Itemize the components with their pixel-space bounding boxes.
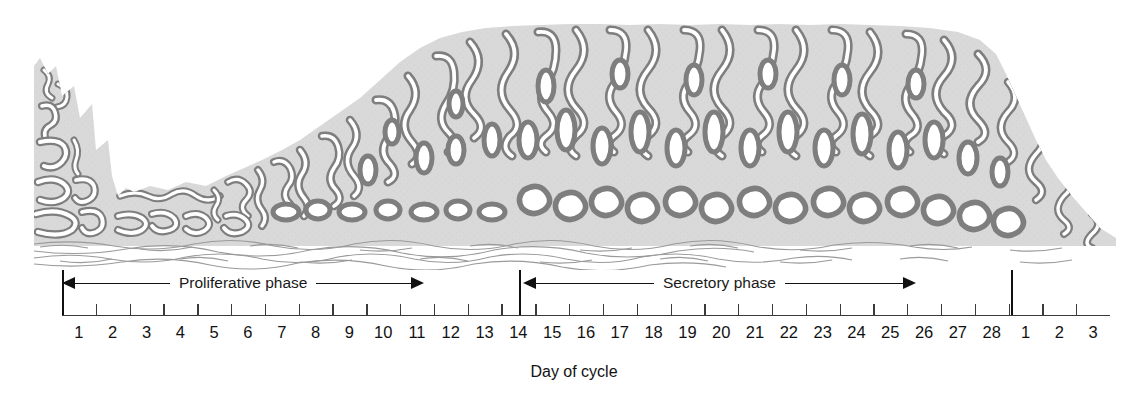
axis-tick [535,304,536,315]
day-label: 11 [408,324,425,341]
axis-tick [738,304,739,315]
axis-tick-group: 1234567891011121314151617181920212223242… [0,262,1148,413]
day-label: 1 [1021,324,1030,341]
axis-tick [671,304,672,315]
day-label: 18 [644,324,662,341]
axis-tick [163,304,164,315]
day-label: 12 [442,324,460,341]
day-label: 20 [712,324,730,341]
axis-tick [1009,304,1010,315]
endometrium-illustration [0,0,1148,270]
axis-tick [197,304,198,315]
axis-tick [1042,304,1043,315]
day-label: 23 [813,324,831,341]
axis-tick [806,304,807,315]
axis-tick [941,304,942,315]
axis-tick [130,304,131,315]
day-label: 17 [611,324,629,341]
day-label: 6 [243,324,252,341]
axis-tick [840,304,841,315]
axis-tick [873,304,874,315]
day-label: 22 [780,324,798,341]
axis-tick [569,304,570,315]
axis-tick [1076,304,1077,315]
axis-tick [603,304,604,315]
axis-tick [332,304,333,315]
day-label: 8 [311,324,320,341]
day-label: 16 [577,324,595,341]
axis-tick [231,304,232,315]
day-label: 15 [543,324,561,341]
day-label: 1 [74,324,83,341]
day-label: 2 [108,324,117,341]
day-label: 21 [746,324,764,341]
day-label: 2 [1055,324,1064,341]
axis-caption: Day of cycle [0,363,1148,381]
axis-tick [96,304,97,315]
day-label: 19 [678,324,696,341]
axis-tick [907,304,908,315]
day-label: 9 [345,324,354,341]
axis-tick [434,304,435,315]
day-label: 13 [475,324,493,341]
day-label: 10 [374,324,392,341]
cycle-axis: Proliferative phase Secretory phase 1234… [0,262,1148,413]
day-label: 25 [881,324,899,341]
axis-tick [468,304,469,315]
axis-tick [501,304,502,315]
axis-tick [772,304,773,315]
day-label: 26 [915,324,933,341]
axis-tick [704,304,705,315]
axis-tick [299,304,300,315]
day-label: 4 [176,324,185,341]
axis-tick [975,304,976,315]
day-label: 3 [1089,324,1098,341]
axis-tick [400,304,401,315]
day-label: 3 [142,324,151,341]
day-label: 5 [210,324,219,341]
day-label: 24 [847,324,865,341]
day-label: 27 [949,324,967,341]
axis-tick [265,304,266,315]
day-label: 28 [982,324,1000,341]
day-label: 7 [277,324,286,341]
axis-tick [637,304,638,315]
axis-tick [366,304,367,315]
day-label: 14 [509,324,527,341]
endometrial-cycle-figure: Proliferative phase Secretory phase 1234… [0,0,1148,413]
